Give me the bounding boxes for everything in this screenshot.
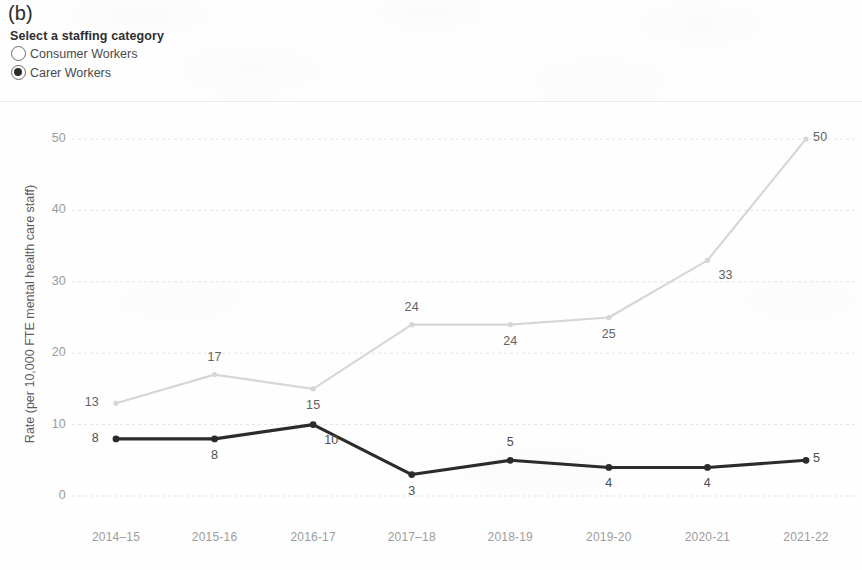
data-point[interactable] [310, 421, 317, 428]
x-axis-tick-label: 2014–15 [71, 530, 161, 544]
data-point-label: 33 [718, 268, 732, 282]
y-axis-tick-label: 50 [32, 131, 66, 145]
data-point[interactable] [212, 372, 217, 377]
data-point-label: 15 [293, 398, 333, 412]
data-point[interactable] [606, 315, 611, 320]
radio-option-consumer-workers[interactable]: Consumer Workers [11, 46, 137, 61]
data-point-label: 50 [813, 130, 827, 144]
gridlines [72, 139, 856, 496]
y-axis-tick-label: 30 [32, 274, 66, 288]
data-point[interactable] [113, 435, 120, 442]
radio-circle-selected-icon[interactable] [11, 65, 26, 80]
data-point-label: 3 [392, 484, 432, 498]
data-point-label: 8 [195, 448, 235, 462]
radio-option-label: Carer Workers [30, 66, 111, 80]
y-axis-tick-label: 40 [32, 202, 66, 216]
y-axis-tick-label: 20 [32, 345, 66, 359]
x-axis-tick-label: 2021-22 [761, 530, 851, 544]
data-point-label: 24 [490, 334, 530, 348]
data-point-label: 24 [392, 300, 432, 314]
data-point[interactable] [803, 136, 808, 141]
data-point-label: 4 [687, 476, 727, 490]
data-point-label: 13 [59, 395, 99, 409]
data-point[interactable] [507, 457, 514, 464]
data-point-label: 25 [589, 327, 629, 341]
data-point[interactable] [311, 386, 316, 391]
data-point-label: 5 [813, 451, 820, 465]
radio-circle-icon[interactable] [11, 46, 26, 61]
data-point[interactable] [704, 464, 711, 471]
y-axis-tick-label: 10 [32, 417, 66, 431]
data-point-label: 10 [324, 433, 338, 447]
x-axis-tick-label: 2020-21 [662, 530, 752, 544]
x-axis-tick-label: 2017–18 [367, 530, 457, 544]
x-axis-tick-label: 2015-16 [170, 530, 260, 544]
figure-panel: (b) Select a staffing category Consumer … [0, 0, 862, 570]
data-point[interactable] [409, 322, 414, 327]
data-point[interactable] [113, 401, 118, 406]
x-axis-tick-label: 2016-17 [268, 530, 358, 544]
x-axis-tick-label: 2018-19 [465, 530, 555, 544]
data-point-label: 8 [59, 431, 99, 445]
data-point[interactable] [508, 322, 513, 327]
series-points [113, 136, 810, 478]
line-chart: Rate (per 10,000 FTE mental health care … [0, 101, 862, 570]
data-point[interactable] [408, 471, 415, 478]
data-point[interactable] [705, 258, 710, 263]
radio-option-label: Consumer Workers [30, 47, 137, 61]
data-point[interactable] [605, 464, 612, 471]
data-point-label: 4 [589, 476, 629, 490]
data-point[interactable] [211, 435, 218, 442]
staffing-category-label: Select a staffing category [10, 29, 164, 43]
data-point-label: 5 [490, 435, 530, 449]
y-axis-tick-label: 0 [32, 488, 66, 502]
radio-option-carer-workers[interactable]: Carer Workers [11, 65, 111, 80]
data-point-label: 17 [195, 350, 235, 364]
data-point[interactable] [803, 457, 810, 464]
chart-canvas [0, 102, 862, 570]
figure-letter: (b) [8, 2, 33, 25]
x-axis-tick-label: 2019-20 [564, 530, 654, 544]
